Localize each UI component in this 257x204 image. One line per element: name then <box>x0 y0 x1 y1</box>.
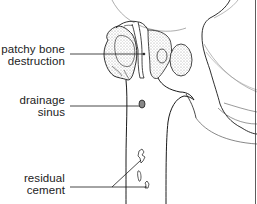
pelvis-outline <box>186 0 257 144</box>
label-line: sinus <box>19 106 65 118</box>
label-line: destruction <box>1 55 65 67</box>
label-patchy-bone-destruction: patchy bone destruction <box>1 43 65 67</box>
label-drainage-sinus: drainage sinus <box>19 94 65 118</box>
label-line: patchy bone <box>1 43 65 55</box>
femoral-shaft <box>126 78 194 204</box>
label-residual-cement: residual cement <box>24 172 65 196</box>
label-line: cement <box>24 184 65 196</box>
label-line: residual <box>24 172 65 184</box>
label-line: drainage <box>19 94 65 106</box>
drainage-sinus-hole <box>139 100 145 108</box>
soft-tissue-contour-top <box>112 0 186 31</box>
residual-cement-fragments <box>138 149 149 188</box>
leader-lines <box>70 53 147 187</box>
